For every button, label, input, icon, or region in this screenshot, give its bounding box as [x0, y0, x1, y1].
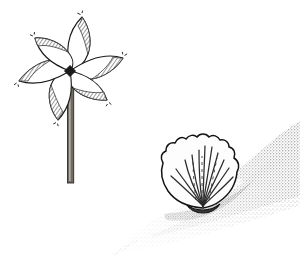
- illustration-canvas: Pinwheel and Seashell on Sand A six-blad…: [0, 0, 302, 280]
- blade-2-tip-mark: [122, 52, 127, 56]
- blade-5-tip-mark: [14, 83, 19, 87]
- blade-6-tip-mark: [30, 32, 35, 36]
- pinwheel-group: [0, 0, 302, 280]
- blade-3-tip-mark: [106, 103, 111, 107]
- blade-4-tip-mark: [53, 123, 58, 127]
- blade-1-tip-mark: [77, 11, 82, 15]
